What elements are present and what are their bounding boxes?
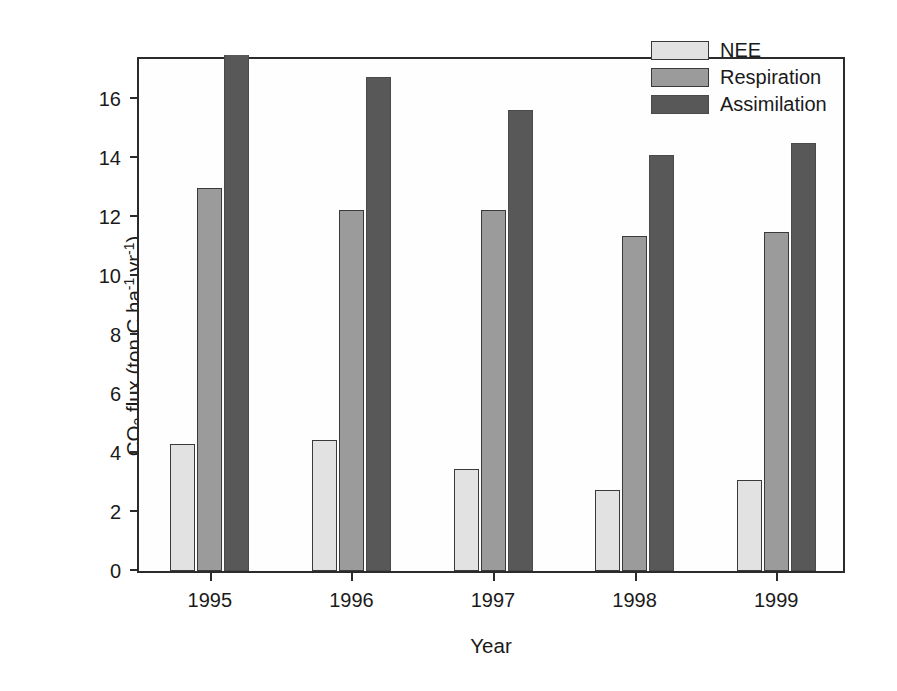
- y-axis-tick-label: 16: [99, 88, 121, 111]
- bar-assimilation-1997: [508, 110, 533, 571]
- bar-nee-1997: [454, 469, 479, 571]
- legend-label-nee: NEE: [720, 39, 761, 62]
- bar-respiration-1995: [197, 188, 222, 571]
- y-axis-title-superscript-1: -1: [121, 277, 137, 289]
- y-axis-tick: 10: [130, 274, 139, 276]
- bar-assimilation-1996: [366, 77, 391, 571]
- legend-label-respiration: Respiration: [720, 66, 821, 89]
- x-axis-tick: [776, 571, 778, 581]
- y-axis-tick: 0: [130, 569, 139, 571]
- y-axis-tick-label: 6: [110, 383, 121, 406]
- plot-area: 0246810121416 19951996199719981999: [137, 57, 845, 573]
- bar-assimilation-1995: [224, 55, 249, 571]
- y-axis-tick-label: 14: [99, 147, 121, 170]
- legend-item-nee: NEE: [651, 38, 866, 63]
- bar-nee-1995: [170, 444, 195, 571]
- bar-nee-1998: [595, 490, 620, 571]
- legend-item-assimilation: Assimilation: [651, 92, 866, 117]
- y-axis-tick-label: 4: [110, 442, 121, 465]
- x-axis-tick-label: 1998: [612, 589, 657, 612]
- x-axis-tick: [493, 571, 495, 581]
- y-axis-tick: 16: [130, 97, 139, 99]
- legend-label-assimilation: Assimilation: [720, 93, 827, 116]
- y-axis-tick: 6: [130, 392, 139, 394]
- y-axis-tick: 4: [130, 451, 139, 453]
- x-axis-tick: [351, 571, 353, 581]
- x-axis-tick-label: 1999: [754, 589, 799, 612]
- bar-nee-1996: [312, 440, 337, 571]
- y-axis-tick-label: 12: [99, 206, 121, 229]
- bar-nee-1999: [737, 480, 762, 571]
- y-axis-tick-label: 0: [110, 560, 121, 583]
- x-axis-title: Year: [137, 634, 845, 658]
- bar-respiration-1997: [481, 210, 506, 571]
- bar-respiration-1998: [622, 236, 647, 571]
- chart-legend: NEERespirationAssimilation: [651, 38, 866, 119]
- x-axis-tick: [635, 571, 637, 581]
- x-axis-tick-label: 1997: [471, 589, 516, 612]
- legend-swatch-respiration: [651, 68, 709, 87]
- bar-assimilation-1999: [791, 143, 816, 571]
- bar-assimilation-1998: [649, 155, 674, 571]
- x-axis-tick-label: 1995: [188, 589, 233, 612]
- y-axis-tick: 8: [130, 333, 139, 335]
- x-axis-tick: [210, 571, 212, 581]
- y-axis-tick: 14: [130, 156, 139, 158]
- legend-item-respiration: Respiration: [651, 65, 866, 90]
- y-axis-tick: 12: [130, 215, 139, 217]
- bar-respiration-1996: [339, 210, 364, 571]
- y-axis-tick-label: 2: [110, 501, 121, 524]
- y-axis-tick-label: 8: [110, 324, 121, 347]
- legend-swatch-nee: [651, 41, 709, 60]
- figure-co2-flux-bar-chart: CO2 flux (ton C ha-1 yr-1) 0246810121416…: [0, 0, 897, 691]
- legend-swatch-assimilation: [651, 95, 709, 114]
- x-axis-tick-label: 1996: [329, 589, 374, 612]
- y-axis-tick: 2: [130, 510, 139, 512]
- bar-respiration-1999: [764, 232, 789, 571]
- y-axis-tick-label: 10: [99, 265, 121, 288]
- y-axis-title-superscript-2: -1: [121, 242, 137, 254]
